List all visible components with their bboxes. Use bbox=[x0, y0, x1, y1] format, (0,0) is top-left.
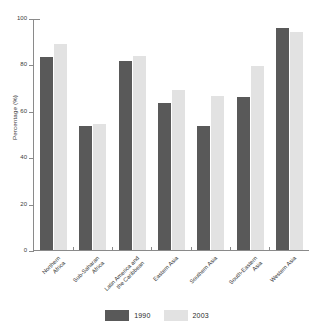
legend-label: 1990 bbox=[134, 312, 150, 319]
bar-1990 bbox=[197, 126, 210, 250]
y-axis-tick-label: 20 bbox=[20, 201, 27, 207]
y-axis-tick-label: 100 bbox=[17, 15, 27, 21]
y-axis-tick-label: 60 bbox=[20, 108, 27, 114]
bar-1990 bbox=[119, 61, 132, 250]
bar-groups bbox=[34, 19, 309, 250]
y-axis-title: Percentage (%) bbox=[11, 73, 18, 163]
y-axis-tick-label: 0 bbox=[24, 247, 27, 253]
bar-group bbox=[230, 19, 269, 250]
y-axis-tick-label: 40 bbox=[20, 154, 27, 160]
bar-2003 bbox=[133, 56, 146, 250]
x-axis-label-slot: Western Asia bbox=[271, 254, 310, 306]
bar-chart: Percentage (%) 100806040200 Northern Afr… bbox=[0, 0, 314, 334]
bar-2003 bbox=[172, 90, 185, 250]
bar-1990 bbox=[158, 103, 171, 250]
y-axis-tick: 0 bbox=[29, 251, 34, 252]
bar-1990 bbox=[237, 97, 250, 250]
bar-2003 bbox=[54, 44, 67, 250]
legend-item[interactable]: 2003 bbox=[164, 310, 209, 321]
bar-2003 bbox=[93, 124, 106, 250]
bar-1990 bbox=[79, 126, 92, 250]
bar-group bbox=[73, 19, 112, 250]
bar-2003 bbox=[251, 66, 264, 250]
bar-group bbox=[191, 19, 230, 250]
bar-group bbox=[152, 19, 191, 250]
bar-group bbox=[113, 19, 152, 250]
bar-2003 bbox=[211, 96, 224, 250]
chart-legend: 19902003 bbox=[0, 310, 314, 321]
bar-2003 bbox=[290, 32, 303, 250]
plot-area: 100806040200 bbox=[33, 19, 309, 251]
bar-1990 bbox=[276, 28, 289, 250]
legend-swatch bbox=[164, 310, 188, 321]
legend-label: 2003 bbox=[193, 312, 209, 319]
x-axis-line bbox=[33, 250, 309, 251]
bar-1990 bbox=[40, 57, 53, 250]
legend-swatch bbox=[105, 310, 129, 321]
bar-group bbox=[34, 19, 73, 250]
y-axis-tick-label: 80 bbox=[20, 61, 27, 67]
legend-item[interactable]: 1990 bbox=[105, 310, 150, 321]
bar-group bbox=[270, 19, 309, 250]
x-axis-labels: Northern AfricaSub-Saharan AfricaLatin A… bbox=[34, 254, 310, 306]
